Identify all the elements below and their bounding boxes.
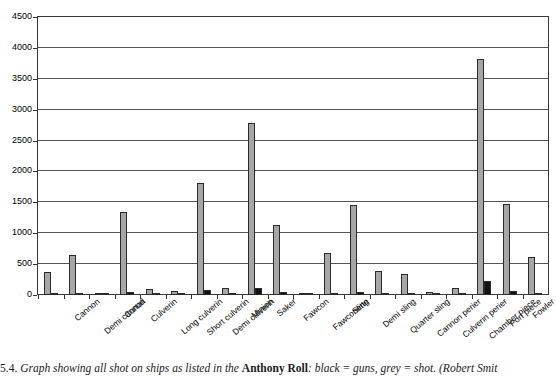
bar-group-fawcon	[268, 17, 294, 295]
bar-guns-fawcon	[280, 292, 287, 295]
y-tick-label-3000: 3000	[12, 105, 32, 114]
bar-guns-long-culverin	[153, 293, 160, 295]
bar-shot-long-culverin	[146, 289, 153, 295]
bar-guns-curtall	[102, 293, 109, 295]
y-tick-mark-0	[33, 295, 37, 296]
figure-container: 050010001500200025003000350040004500 Can…	[0, 0, 556, 378]
bar-shot-port-piece	[477, 59, 484, 295]
bar-guns-short-culverin	[178, 293, 185, 295]
bar-group-port-piece	[472, 17, 498, 295]
y-axis: 050010001500200025003000350040004500	[0, 0, 37, 300]
bar-shot-quarter-sling	[375, 271, 382, 295]
bar-group-demi-culverin	[191, 17, 217, 295]
bar-shot-minion	[222, 288, 229, 295]
y-tick-label-3500: 3500	[12, 74, 32, 83]
bar-guns-chamber-piece	[459, 293, 466, 295]
bar-group-minion	[217, 17, 243, 295]
x-label-curtall: Curtall	[122, 297, 147, 320]
bar-guns-demi-sling	[357, 292, 364, 295]
x-label-culverin: Culverin	[149, 297, 179, 324]
bar-shot-cannon-perier	[401, 274, 408, 295]
bar-shot-chamber-piece	[452, 288, 459, 295]
bar-group-fawconette	[293, 17, 319, 295]
bar-group-cannon	[38, 17, 64, 295]
bar-guns-port-piece	[484, 281, 491, 295]
bar-group-sling	[319, 17, 345, 295]
bar-group-curtall	[89, 17, 115, 295]
bar-group-quarter-sling	[370, 17, 396, 295]
bar-shot-cannon	[44, 272, 51, 295]
x-label-fawcon: Fawcon	[302, 297, 331, 323]
bar-shot-sling	[324, 253, 331, 295]
bar-shot-saker	[248, 123, 255, 295]
x-axis-labels: CannonDemi cannonCurtallCulverinLong cul…	[38, 297, 548, 355]
bar-shot-demi-cannon	[69, 255, 76, 295]
y-tick-label-2500: 2500	[12, 136, 32, 145]
bar-group-saker	[242, 17, 268, 295]
bar-guns-culverin	[127, 292, 134, 295]
bar-guns-sling	[331, 293, 338, 295]
bar-guns-fowler	[510, 291, 517, 295]
y-tick-label-0: 0	[27, 290, 32, 299]
bar-chart: 050010001500200025003000350040004500	[0, 0, 556, 300]
bar-group-culverin-perier	[421, 17, 447, 295]
bar-guns-quarter-sling	[382, 293, 389, 295]
bar-guns-top-piece	[535, 293, 542, 295]
y-tick-label-2000: 2000	[12, 166, 32, 175]
bar-series-group	[38, 17, 548, 295]
bar-shot-top-piece	[528, 257, 535, 295]
bar-group-short-culverin	[166, 17, 192, 295]
x-label-saker: Saker	[275, 297, 298, 318]
y-tick-label-1000: 1000	[12, 228, 32, 237]
bar-group-fowler	[497, 17, 523, 295]
figure-caption: 5.4. Graph showing all shot on ships as …	[0, 361, 556, 378]
bar-group-long-culverin	[140, 17, 166, 295]
bar-shot-culverin	[120, 212, 127, 295]
x-label-minion: Minion	[250, 297, 275, 320]
bar-guns-minion	[229, 293, 236, 295]
bar-guns-demi-culverin	[204, 290, 211, 295]
bar-group-culverin	[115, 17, 141, 295]
y-tick-label-4500: 4500	[12, 12, 32, 21]
x-label-cannon: Cannon	[72, 297, 101, 323]
bar-shot-demi-sling	[350, 205, 357, 295]
bar-guns-cannon	[51, 293, 58, 295]
caption-number: 5.4.	[0, 362, 17, 374]
bar-shot-culverin-perier	[426, 292, 433, 295]
bar-group-cannon-perier	[395, 17, 421, 295]
bar-guns-fawconette	[306, 293, 313, 295]
caption-text-2: : black = guns, grey = shot. (Robert Smi…	[308, 362, 497, 374]
y-tick-label-1500: 1500	[12, 197, 32, 206]
bar-shot-curtall	[95, 293, 102, 295]
bar-guns-demi-cannon	[76, 293, 83, 295]
bar-guns-saker	[255, 288, 262, 295]
x-label-sling: Sling	[350, 297, 370, 316]
caption-source-title: Anthony Roll	[242, 362, 308, 374]
bar-shot-fowler	[503, 204, 510, 295]
bar-group-top-piece	[523, 17, 549, 295]
bar-guns-cannon-perier	[408, 293, 415, 295]
bar-group-demi-cannon	[64, 17, 90, 295]
caption-text-1: Graph showing all shot on ships as liste…	[17, 362, 242, 374]
bar-shot-demi-culverin	[197, 183, 204, 295]
bar-group-chamber-piece	[446, 17, 472, 295]
bar-shot-short-culverin	[171, 291, 178, 295]
bar-guns-culverin-perier	[433, 293, 440, 295]
bar-shot-fawconette	[299, 293, 306, 295]
y-tick-label-4000: 4000	[12, 43, 32, 52]
y-tick-label-500: 500	[17, 259, 32, 268]
bar-shot-fawcon	[273, 225, 280, 295]
bar-group-demi-sling	[344, 17, 370, 295]
